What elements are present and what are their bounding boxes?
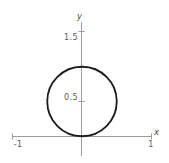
plot-canvas: 1.5 0.5 -1 1 y x — [0, 0, 169, 163]
x-tick-label-neg-1: -1 — [10, 140, 26, 149]
y-axis-label: y — [77, 12, 82, 21]
x-tick-label-1: 1 — [143, 140, 159, 149]
y-tick-label-0-5: 0.5 — [52, 93, 78, 102]
x-axis-label: x — [154, 128, 159, 137]
y-tick-label-1-5: 1.5 — [52, 33, 78, 42]
plot-graphics — [0, 0, 169, 163]
